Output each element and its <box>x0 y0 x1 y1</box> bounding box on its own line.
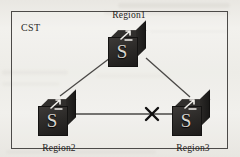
node-region3-label: Region3 <box>170 143 216 153</box>
switch-icon: S <box>106 30 152 66</box>
node-region2-glyph: S <box>38 106 66 134</box>
node-region1[interactable]: Region1 S <box>106 22 152 72</box>
switch-icon: S <box>36 99 82 135</box>
node-region2[interactable]: S Region2 <box>36 91 82 141</box>
node-region1-label: Region1 <box>106 10 152 20</box>
node-region3-glyph: S <box>172 106 200 134</box>
switch-icon: S <box>170 99 216 135</box>
node-region3[interactable]: S Region3 <box>170 91 216 141</box>
node-region2-label: Region2 <box>36 143 82 153</box>
node-region1-glyph: S <box>108 37 136 65</box>
